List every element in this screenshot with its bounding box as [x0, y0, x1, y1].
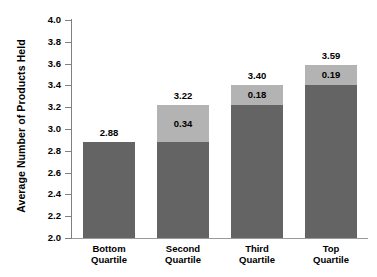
- x-axis-category-label: BottomQuartile: [67, 243, 151, 265]
- bar-segment-base[interactable]: [157, 142, 209, 238]
- bar-group[interactable]: 2.88: [83, 20, 135, 238]
- y-axis-tick-label: 2.0: [31, 233, 61, 243]
- bar-increment-label: 0.18: [231, 90, 283, 100]
- category-label-line: Top: [289, 243, 373, 254]
- y-axis-tick-label: 4.0: [31, 15, 61, 25]
- y-axis-tick-label: 2.2: [31, 211, 61, 221]
- x-axis-line: [71, 238, 368, 239]
- y-axis-tick-mark: [65, 151, 72, 152]
- y-axis-tick-label: 2.8: [31, 146, 61, 156]
- y-axis-title: Average Number of Products Held: [15, 11, 27, 241]
- category-label-line: Quartile: [289, 254, 373, 265]
- y-axis-tick-label: 3.0: [31, 124, 61, 134]
- y-axis-tick-label: 3.4: [31, 80, 61, 90]
- y-axis-tick-mark: [65, 42, 72, 43]
- y-axis-tick-mark: [65, 173, 72, 174]
- y-axis-tick-mark: [65, 64, 72, 65]
- bar-total-label: 2.88: [69, 128, 149, 138]
- bar-total-label: 3.59: [291, 51, 371, 61]
- category-label-line: Bottom: [67, 243, 151, 254]
- x-axis-category-label: SecondQuartile: [141, 243, 225, 265]
- y-axis-tick-mark: [65, 194, 72, 195]
- category-label-line: Quartile: [141, 254, 225, 265]
- category-label-line: Third: [215, 243, 299, 254]
- y-axis-tick-label: 2.6: [31, 168, 61, 178]
- bar-segment-base[interactable]: [305, 85, 357, 238]
- bar-group[interactable]: 0.343.22: [157, 20, 209, 238]
- y-axis-tick-label: 3.8: [31, 37, 61, 47]
- category-label-line: Second: [141, 243, 225, 254]
- category-label-line: Quartile: [215, 254, 299, 265]
- y-axis-tick-label: 2.4: [31, 189, 61, 199]
- y-axis-tick-label: 3.6: [31, 59, 61, 69]
- x-axis-category-label: ThirdQuartile: [215, 243, 299, 265]
- y-axis-tick-label: 3.2: [31, 102, 61, 112]
- bar-group[interactable]: 0.193.59: [305, 20, 357, 238]
- bar-chart: Average Number of Products Held 4.03.83.…: [0, 0, 377, 277]
- bar-group[interactable]: 0.183.40: [231, 20, 283, 238]
- y-axis-tick-mark: [65, 20, 72, 21]
- bar-segment-base[interactable]: [83, 142, 135, 238]
- x-axis-category-label: TopQuartile: [289, 243, 373, 265]
- bar-increment-label: 0.34: [157, 119, 209, 129]
- y-axis-tick-mark: [65, 238, 72, 239]
- bar-segment-base[interactable]: [231, 105, 283, 238]
- bar-total-label: 3.22: [143, 91, 223, 101]
- y-axis-tick-mark: [65, 107, 72, 108]
- y-axis-tick-mark: [65, 85, 72, 86]
- y-axis-tick-mark: [65, 216, 72, 217]
- bar-increment-label: 0.19: [305, 70, 357, 80]
- plot-area: 2.880.343.220.183.400.193.59: [72, 20, 368, 238]
- bar-total-label: 3.40: [217, 71, 297, 81]
- category-label-line: Quartile: [67, 254, 151, 265]
